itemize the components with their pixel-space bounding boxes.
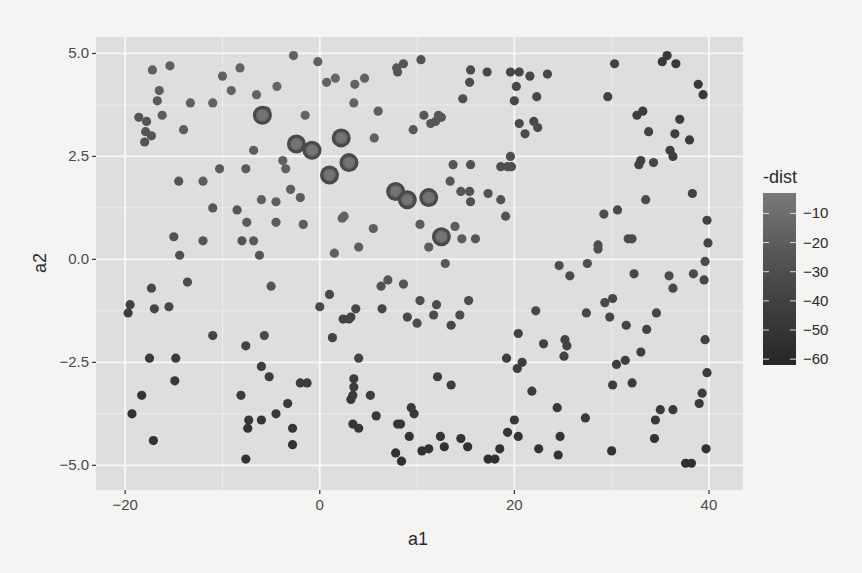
data-point: [377, 304, 386, 313]
data-point-highlighted: [308, 146, 316, 154]
data-point-highlighted: [258, 111, 266, 119]
data-point: [215, 164, 224, 173]
data-point: [174, 177, 183, 186]
data-point: [502, 354, 511, 363]
data-point: [456, 187, 465, 196]
data-point: [186, 98, 195, 107]
data-point: [299, 220, 308, 229]
data-point: [703, 238, 712, 247]
data-point: [603, 92, 612, 101]
data-point: [441, 259, 450, 268]
legend-colorbar: [763, 193, 796, 365]
data-point: [506, 152, 515, 161]
data-point: [286, 185, 295, 194]
data-point: [433, 372, 442, 381]
data-point: [142, 117, 151, 126]
data-point: [391, 448, 400, 457]
data-point: [456, 434, 465, 443]
data-point: [543, 69, 552, 78]
data-point: [503, 428, 512, 437]
data-point: [208, 203, 217, 212]
data-point: [527, 387, 536, 396]
data-point: [150, 304, 159, 313]
data-point-highlighted: [326, 171, 334, 179]
data-point: [257, 415, 266, 424]
data-point: [458, 94, 467, 103]
data-point: [699, 90, 708, 99]
data-point: [432, 300, 441, 309]
data-point: [607, 446, 616, 455]
data-point: [134, 113, 143, 122]
data-point: [218, 72, 227, 81]
data-point: [581, 413, 590, 422]
data-point: [198, 236, 207, 245]
data-point: [376, 282, 385, 291]
data-point: [688, 189, 697, 198]
scatter-chart: −2002040 −5.0−2.50.02.55.0 a1 a2 -dist −…: [0, 0, 862, 573]
data-point-highlighted: [292, 140, 300, 148]
data-point: [555, 261, 564, 270]
data-point: [241, 341, 250, 350]
data-point: [651, 415, 660, 424]
data-point: [622, 321, 631, 330]
data-point: [289, 51, 298, 60]
data-point: [424, 242, 433, 251]
data-point: [303, 378, 312, 387]
data-point: [354, 242, 363, 251]
data-point: [369, 224, 378, 233]
data-point: [165, 61, 174, 70]
data-point: [350, 80, 359, 89]
data-point: [370, 133, 379, 142]
data-point: [241, 455, 250, 464]
data-point: [440, 442, 449, 451]
data-point: [510, 96, 519, 105]
data-point: [153, 96, 162, 105]
data-point: [627, 234, 636, 243]
data-point-highlighted: [345, 159, 353, 167]
data-point: [354, 424, 363, 433]
data-point: [149, 436, 158, 445]
data-point: [610, 59, 619, 68]
data-point: [471, 234, 480, 243]
data-point: [155, 86, 164, 95]
data-point: [621, 356, 630, 365]
data-point: [495, 444, 504, 453]
data-point: [288, 424, 297, 433]
data-point: [448, 160, 457, 169]
data-point: [466, 197, 475, 206]
data-point: [600, 298, 609, 307]
data-point: [695, 399, 704, 408]
data-point: [685, 135, 694, 144]
data-point: [694, 80, 703, 89]
data-point: [354, 354, 363, 363]
data-point: [265, 372, 274, 381]
data-point: [283, 399, 292, 408]
data-point: [612, 360, 621, 369]
data-point: [360, 74, 369, 83]
legend-label: −60: [803, 350, 828, 367]
data-point: [553, 403, 562, 412]
data-point: [249, 146, 258, 155]
data-point: [399, 59, 408, 68]
data-point: [339, 212, 348, 221]
data-point: [235, 63, 244, 72]
data-point: [436, 432, 445, 441]
data-point: [313, 57, 322, 66]
data-point: [675, 115, 684, 124]
data-point: [249, 236, 258, 245]
y-tick-label: −5.0: [59, 456, 89, 473]
data-point: [164, 302, 173, 311]
data-point: [652, 308, 661, 317]
data-point: [562, 341, 571, 350]
data-point: [463, 442, 472, 451]
data-point: [702, 216, 711, 225]
data-point: [656, 405, 665, 414]
legend: -dist −10−20−30−40−50−60: [763, 167, 828, 367]
data-point: [374, 107, 383, 116]
data-point: [649, 158, 658, 167]
data-point: [668, 405, 677, 414]
data-point: [644, 127, 653, 136]
y-tick-label: 0.0: [68, 250, 89, 267]
data-point: [608, 294, 617, 303]
legend-label: −50: [803, 321, 828, 338]
